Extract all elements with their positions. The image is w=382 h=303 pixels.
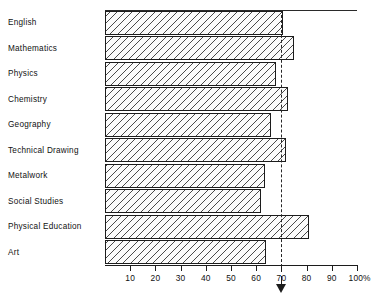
x-tick-label: 20 xyxy=(151,273,161,283)
bar-row xyxy=(105,36,357,62)
horizontal-bar-chart: EnglishMathematicsPhysicsChemistryGeogra… xyxy=(0,0,382,303)
x-tick xyxy=(332,265,333,271)
category-label: Mathematics xyxy=(8,36,57,62)
bar xyxy=(105,62,276,86)
category-label: Physical Education xyxy=(8,214,82,240)
x-tick-label: 70 xyxy=(277,273,287,283)
bar xyxy=(105,87,288,111)
x-tick-label: 100% xyxy=(349,273,371,283)
reference-line-70-percent xyxy=(281,10,282,272)
x-tick xyxy=(130,265,131,271)
bar-row xyxy=(105,112,357,138)
bar-row xyxy=(105,189,357,215)
x-tick-label: 10 xyxy=(125,273,135,283)
x-tick-label: 30 xyxy=(176,273,186,283)
bar-row xyxy=(105,61,357,87)
bar xyxy=(105,215,309,239)
bar xyxy=(105,138,286,162)
plot-area xyxy=(105,10,357,265)
bar xyxy=(105,113,271,137)
reference-arrow-head-icon xyxy=(276,284,286,293)
x-tick xyxy=(155,265,156,271)
bar xyxy=(105,189,261,213)
x-tick xyxy=(281,265,282,271)
bar-row xyxy=(105,138,357,164)
category-label: Social Studies xyxy=(8,189,63,215)
x-tick-label: 80 xyxy=(302,273,312,283)
x-tick xyxy=(181,265,182,271)
x-tick xyxy=(307,265,308,271)
top-rule xyxy=(105,10,357,11)
x-tick-label: 50 xyxy=(226,273,236,283)
category-label: Physics xyxy=(8,61,38,87)
x-tick-label: 40 xyxy=(201,273,211,283)
bar-row xyxy=(105,163,357,189)
bar-row xyxy=(105,87,357,113)
category-label: English xyxy=(8,10,37,36)
bar-row xyxy=(105,240,357,266)
category-label: Technical Drawing xyxy=(8,138,79,164)
category-label: Metalwork xyxy=(8,163,48,189)
category-label: Chemistry xyxy=(8,87,47,113)
bar-row xyxy=(105,214,357,240)
category-label-list: EnglishMathematicsPhysicsChemistryGeogra… xyxy=(0,10,100,265)
x-tick xyxy=(231,265,232,271)
bar xyxy=(105,36,294,60)
x-tick xyxy=(206,265,207,271)
category-label: Art xyxy=(8,240,19,266)
bar xyxy=(105,164,265,188)
x-tick xyxy=(256,265,257,271)
bar-row xyxy=(105,10,357,36)
x-tick xyxy=(357,265,358,271)
category-label: Geography xyxy=(8,112,51,138)
bar xyxy=(105,240,266,264)
x-tick-label: 60 xyxy=(251,273,261,283)
x-tick-label: 90 xyxy=(327,273,337,283)
bar xyxy=(105,11,283,35)
